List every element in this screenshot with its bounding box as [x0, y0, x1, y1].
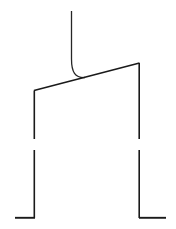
canvas-background — [0, 0, 176, 229]
drawing-canvas — [0, 0, 176, 229]
line-drawing — [0, 0, 176, 229]
